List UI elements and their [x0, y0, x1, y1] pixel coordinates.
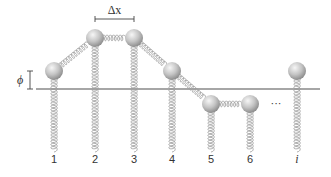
- mass-ball-6: [241, 95, 259, 113]
- vertical-spring-2: [92, 44, 98, 152]
- coupled-springs-diagram: 123456i ···Δxϕ: [0, 0, 331, 177]
- vertical-spring-1: [51, 77, 57, 152]
- coupling-spring-5-6: [217, 101, 242, 107]
- vertical-spring-i: [294, 77, 300, 152]
- masses: [45, 29, 306, 113]
- coupling-spring-1-2: [58, 42, 88, 69]
- vertical-spring-6: [247, 110, 253, 152]
- vertical-springs: [51, 44, 300, 152]
- phi-label: ϕ: [17, 73, 23, 87]
- index-label-1: 1: [51, 153, 57, 165]
- vertical-spring-3: [131, 44, 137, 152]
- mass-ball-5: [202, 95, 220, 113]
- mass-ball-3: [125, 29, 143, 47]
- coupling-spring-3-4: [137, 41, 166, 66]
- index-label-3: 3: [131, 153, 137, 165]
- coupling-spring-4-5: [175, 74, 205, 99]
- index-label-5: 5: [208, 153, 214, 165]
- vertical-spring-4: [169, 77, 175, 152]
- index-label-4: 4: [169, 153, 175, 165]
- delta-x-label: Δx: [108, 3, 122, 17]
- ellipsis: ···: [271, 97, 282, 109]
- mass-ball-4: [163, 62, 181, 80]
- coupling-spring-2-3: [101, 35, 126, 41]
- mass-ball-2: [86, 29, 104, 47]
- mass-ball-1: [45, 62, 63, 80]
- index-label-6: 6: [247, 153, 253, 165]
- mass-ball-i: [288, 62, 306, 80]
- vertical-spring-5: [208, 110, 214, 152]
- index-labels: 123456i: [51, 152, 299, 166]
- index-label-2: 2: [92, 153, 98, 165]
- index-label-i: i: [295, 152, 298, 166]
